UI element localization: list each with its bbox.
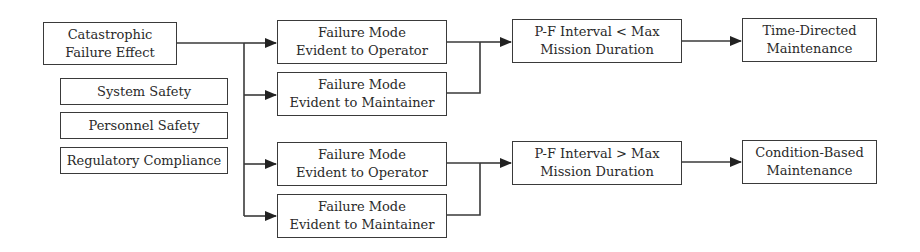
condition-pf-less-than-max: P-F Interval < Max Mission Duration — [512, 19, 682, 63]
criteria-regulatory-compliance: Regulatory Compliance — [60, 147, 228, 174]
node-label-line2: Failure Effect — [65, 44, 155, 62]
outcome-time-directed-maintenance: Time-Directed Maintenance — [742, 18, 877, 62]
mode-evident-to-operator-bottom: Failure Mode Evident to Operator — [277, 142, 447, 186]
mode-evident-to-operator-top: Failure Mode Evident to Operator — [277, 20, 447, 64]
catastrophic-failure-effect-node: Catastrophic Failure Effect — [43, 22, 177, 65]
node-label-line1: Catastrophic — [68, 26, 153, 44]
node-label-line2: Evident to Operator — [296, 42, 428, 60]
mode-evident-to-maintainer-top: Failure Mode Evident to Maintainer — [277, 72, 447, 116]
node-label-line1: Failure Mode — [318, 24, 406, 42]
node-label-line2: Evident to Operator — [296, 164, 428, 182]
node-label-line1: Failure Mode — [318, 146, 406, 164]
node-label-line1: Time-Directed — [762, 22, 856, 40]
outcome-condition-based-maintenance: Condition-Based Maintenance — [742, 140, 877, 184]
node-label-line2: Maintenance — [767, 162, 853, 180]
node-label-line1: P-F Interval < Max — [534, 23, 659, 41]
criteria-personnel-safety: Personnel Safety — [60, 112, 228, 139]
criteria-label: Personnel Safety — [88, 117, 199, 135]
node-label-line1: Condition-Based — [755, 144, 864, 162]
mode-evident-to-maintainer-bottom: Failure Mode Evident to Maintainer — [277, 194, 447, 238]
node-label-line2: Mission Duration — [540, 163, 654, 181]
node-label-line2: Evident to Maintainer — [290, 94, 435, 112]
criteria-label: Regulatory Compliance — [67, 152, 222, 170]
node-label-line2: Maintenance — [767, 40, 853, 58]
node-label-line1: Failure Mode — [318, 198, 406, 216]
node-label-line1: P-F Interval > Max — [534, 145, 659, 163]
criteria-label: System Safety — [97, 83, 191, 101]
node-label-line1: Failure Mode — [318, 76, 406, 94]
node-label-line2: Evident to Maintainer — [290, 216, 435, 234]
node-label-line2: Mission Duration — [540, 41, 654, 59]
criteria-system-safety: System Safety — [60, 78, 228, 105]
condition-pf-greater-than-max: P-F Interval > Max Mission Duration — [512, 141, 682, 185]
